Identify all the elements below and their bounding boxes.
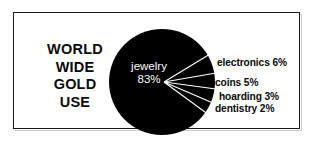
title-word-world: WORLD: [47, 41, 103, 57]
pie-slice-label-dentistry: dentistry 2%: [215, 103, 274, 114]
figure-canvas: WORLD WIDE GOLD USE jewelry 83%: [0, 0, 320, 142]
pie-slice-label-coins: coins 5%: [215, 77, 258, 88]
pie-slice-label-jewelry-name: jewelry: [118, 60, 180, 73]
pie-slice-label-jewelry-value: 83%: [118, 73, 180, 86]
title-line-1: WORLD: [36, 41, 114, 59]
pie-slice-label-jewelry: jewelry 83%: [118, 60, 180, 86]
title-word-gold: GOLD: [54, 76, 97, 92]
title-line-4: USE: [36, 94, 114, 112]
title-word-wide: WIDE: [56, 59, 95, 75]
pie-slice-label-hoarding: hoarding 3%: [219, 91, 279, 102]
page-title: WORLD WIDE GOLD USE: [36, 41, 114, 111]
pie-slice-label-electronics: electronics 6%: [217, 57, 287, 68]
title-line-2: WIDE: [36, 59, 114, 77]
title-word-use: USE: [60, 94, 90, 110]
figure-border-panel: WORLD WIDE GOLD USE jewelry 83%: [13, 12, 300, 129]
title-line-3: GOLD: [36, 76, 114, 94]
